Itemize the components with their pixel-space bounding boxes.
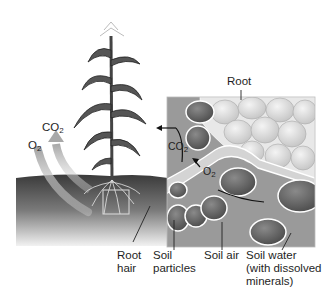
- o2-air-subscript: 2: [37, 144, 41, 153]
- label-soil-particles: Soil particles: [153, 249, 196, 275]
- o2-inset-text: O: [203, 165, 211, 177]
- co2-air-text: CO: [42, 121, 59, 133]
- label-root: Root: [227, 75, 251, 88]
- label-co2-air: CO2: [42, 121, 64, 137]
- label-soil-air: Soil air: [204, 249, 239, 262]
- o2-inset-subscript: 2: [211, 170, 215, 179]
- soil-particles-line1: Soil: [153, 249, 196, 262]
- co2-air-subscript: 2: [59, 126, 63, 135]
- label-co2-inset: CO2: [168, 140, 188, 156]
- soil-particles-line2: particles: [153, 262, 196, 275]
- soil-water-line1: Soil water: [246, 249, 321, 262]
- co2-inset-text: CO: [168, 140, 184, 152]
- soil-water-line3: minerals): [246, 275, 321, 288]
- o2-air-text: O: [28, 139, 37, 151]
- root-hair-line2: hair: [117, 262, 141, 275]
- soil-inset-panel: [150, 97, 322, 247]
- label-o2-inset: O2: [203, 165, 216, 181]
- label-o2-air: O2: [28, 139, 41, 155]
- root-hair-line1: Root: [117, 249, 141, 262]
- co2-inset-subscript: 2: [184, 145, 188, 154]
- soil-ground: [16, 174, 168, 246]
- soil-water-line2: (with dissolved: [246, 262, 321, 275]
- label-root-hair: Root hair: [117, 249, 141, 275]
- label-soil-water: Soil water (with dissolved minerals): [246, 249, 321, 288]
- corn-plant-illustration: [74, 22, 146, 180]
